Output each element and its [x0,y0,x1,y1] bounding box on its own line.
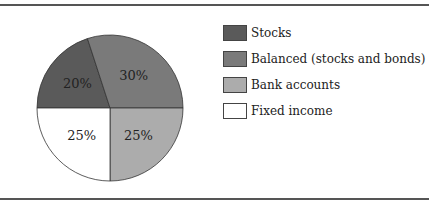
pie-slice [110,108,183,181]
slice-label: 20% [63,76,92,91]
legend-swatch [223,25,247,41]
legend-item: Stocks [223,20,425,46]
legend-label: Balanced (stocks and bonds) [251,52,425,66]
slice-label: 25% [124,128,153,143]
legend-item: Bank accounts [223,72,425,98]
legend-item: Fixed income [223,98,425,124]
legend-label: Bank accounts [251,78,340,92]
legend-item: Balanced (stocks and bonds) [223,46,425,72]
legend: Stocks Balanced (stocks and bonds) Bank … [223,20,425,124]
slice-label: 30% [119,68,148,83]
legend-label: Stocks [251,26,291,40]
legend-swatch [223,77,247,93]
legend-swatch [223,51,247,67]
legend-label: Fixed income [251,104,333,118]
pie-slice [37,108,110,181]
slice-label: 25% [67,128,96,143]
legend-swatch [223,103,247,119]
